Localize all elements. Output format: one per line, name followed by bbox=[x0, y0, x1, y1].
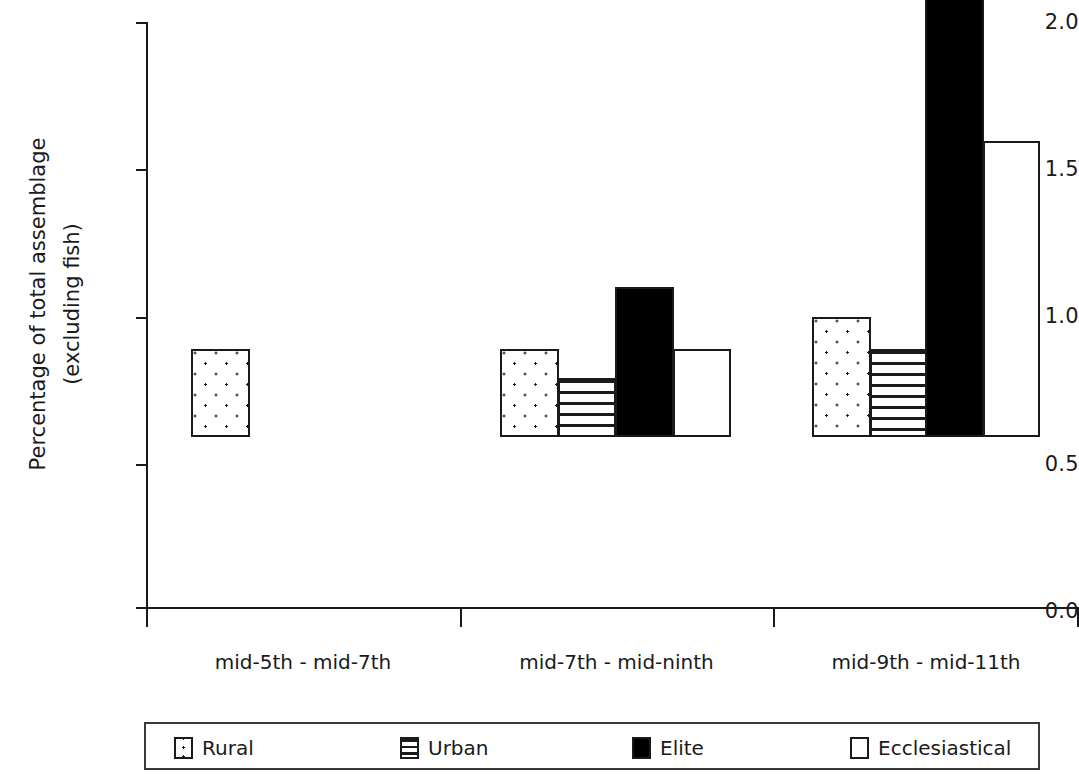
legend-label-elite: Elite bbox=[660, 737, 704, 759]
legend: Rural Urban Elite Ecclesiastical bbox=[144, 722, 1040, 770]
bar-ecclesiastical-mid-7th-mid-ninth bbox=[673, 349, 731, 437]
legend-swatch-elite-icon bbox=[632, 737, 651, 759]
legend-swatch-urban-icon bbox=[400, 737, 419, 759]
bar-rural-mid-7th-mid-ninth bbox=[500, 349, 559, 437]
legend-item-urban[interactable]: Urban bbox=[400, 733, 489, 763]
legend-item-rural[interactable]: Rural bbox=[174, 733, 254, 763]
legend-swatch-ecclesiastical-icon bbox=[850, 737, 869, 759]
legend-swatch-rural-icon bbox=[174, 737, 193, 759]
x-category-label-0: mid-5th - mid-7th bbox=[146, 650, 460, 674]
legend-label-urban: Urban bbox=[428, 737, 489, 759]
chart-figure: Percentage of total assemblage (excludin… bbox=[0, 0, 1079, 781]
bar-urban-mid-7th-mid-ninth bbox=[558, 378, 616, 437]
bar-ecclesiastical-mid-9th-mid-11th bbox=[983, 141, 1040, 437]
legend-label-ecclesiastical: Ecclesiastical bbox=[878, 737, 1011, 759]
x-axis-separator-0 bbox=[146, 609, 148, 627]
x-category-label-2: mid-9th - mid-11th bbox=[773, 650, 1079, 674]
bar-urban-mid-9th-mid-11th bbox=[870, 349, 927, 437]
legend-item-ecclesiastical[interactable]: Ecclesiastical bbox=[850, 733, 1011, 763]
plot-area bbox=[0, 0, 1079, 609]
bar-elite-mid-7th-mid-ninth bbox=[615, 287, 674, 437]
x-category-label-1: mid-7th - mid-ninth bbox=[460, 650, 773, 674]
x-axis-separator-1 bbox=[460, 609, 462, 627]
bar-elite-mid-9th-mid-11th bbox=[925, 0, 984, 437]
bar-rural-mid-5th-mid-7th bbox=[191, 349, 250, 437]
bar-rural-mid-9th-mid-11th bbox=[812, 317, 871, 437]
x-axis-separator-2 bbox=[773, 609, 775, 627]
legend-label-rural: Rural bbox=[202, 737, 254, 759]
legend-item-elite[interactable]: Elite bbox=[632, 733, 704, 763]
